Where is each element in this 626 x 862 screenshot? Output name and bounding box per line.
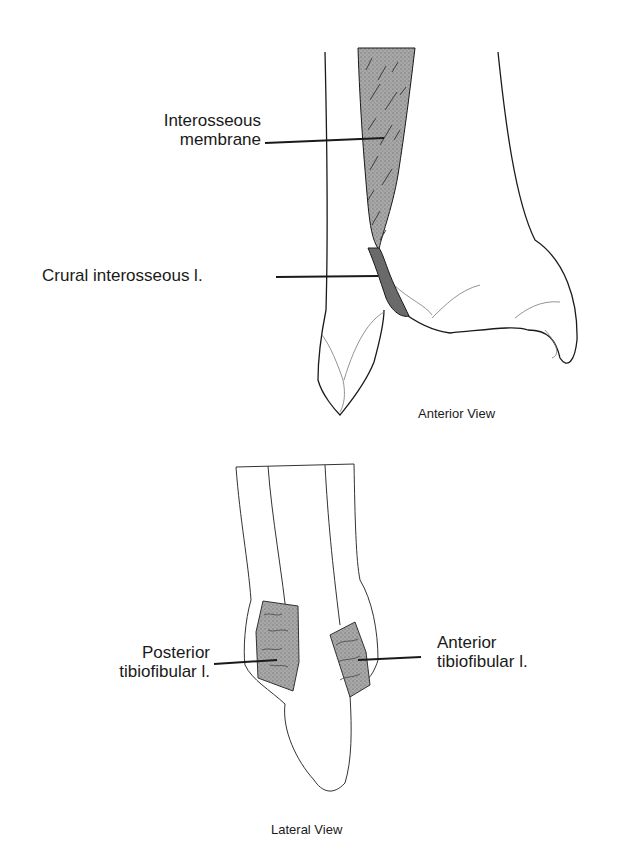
anterior-tibiofibular-leader [358,657,421,660]
diagram-canvas: Interosseous membrane Crural interosseou… [0,0,626,862]
crural-interosseous-leader [276,276,378,277]
interosseous-membrane-label: Interosseous membrane [120,111,261,149]
label-line-1: Interosseous [120,111,261,130]
anterior-view-drawing [318,52,577,415]
crural-interosseous-ligament-shape [368,248,409,316]
anterior-tibiofibular-label: Anterior tibiofibular l. [437,633,528,671]
talus-outline [285,695,352,791]
label-line-1: Posterior [90,643,210,662]
anterior-view-caption: Anterior View [418,406,495,421]
label-line-1: Anterior [437,633,528,652]
label-line-2: tibiofibular l. [437,652,528,671]
posterior-tibiofibular-label: Posterior tibiofibular l. [90,643,210,681]
interosseous-membrane-shape [358,48,415,250]
tibia-outline [400,52,577,363]
label-line-2: tibiofibular l. [90,662,210,681]
label-line-2: membrane [120,130,261,149]
posterior-tibiofibular-ligament-shape [256,601,299,691]
lateral-top-edge [236,464,354,467]
crural-interosseous-label: Crural interosseous l. [42,266,203,285]
ankle-ligament-illustration [0,0,626,862]
lateral-view-caption: Lateral View [271,822,342,837]
